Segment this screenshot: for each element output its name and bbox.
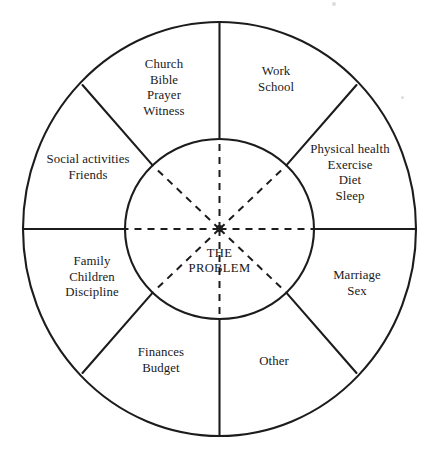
segment-label-physical-health: Physical health Exercise Diet Sleep (298, 142, 402, 204)
segment-line: Friends (32, 168, 144, 184)
segment-line: Physical health (298, 142, 402, 158)
center-line-2: PROBLEM (167, 261, 272, 276)
segment-label-marriage-sex: Marriage Sex (311, 268, 403, 299)
dashed-spoke-up-left (154, 166, 220, 229)
segment-line: Social activities (32, 152, 144, 168)
segment-line: Church (108, 57, 220, 73)
segment-line: Finances (112, 345, 210, 361)
segment-line: Sleep (298, 189, 402, 205)
segment-line: School (224, 80, 328, 96)
segment-line: Budget (112, 361, 210, 377)
segment-line: Sex (311, 284, 403, 300)
center-line-1: THE (167, 246, 272, 261)
segment-line: Prayer (108, 88, 220, 104)
segment-label-family-children-discipline: Family Children Discipline (40, 254, 144, 301)
problem-center-point (216, 225, 223, 232)
segment-line: Children (40, 270, 144, 286)
segment-line: Diet (298, 173, 402, 189)
segment-label-other: Other (229, 354, 319, 370)
segment-line: Exercise (298, 158, 402, 174)
segment-line: Discipline (40, 285, 144, 301)
segment-label-church-bible-prayer-witness: Church Bible Prayer Witness (108, 57, 220, 119)
segment-line: Family (40, 254, 144, 270)
scan-artifact (332, 2, 336, 6)
segment-line: Other (229, 354, 319, 370)
segment-line: Work (224, 64, 328, 80)
segment-line: Marriage (311, 268, 403, 284)
segment-label-social-activities-friends: Social activities Friends (32, 152, 144, 183)
segment-line: Witness (108, 104, 220, 120)
segment-line: Bible (108, 73, 220, 89)
segment-label-work-school: Work School (224, 64, 328, 95)
diagram-canvas: Church Bible Prayer Witness Work School … (0, 0, 439, 457)
segment-label-finances-budget: Finances Budget (112, 345, 210, 376)
scan-artifact (401, 96, 404, 99)
center-label-the-problem: THE PROBLEM (167, 246, 272, 276)
dashed-spoke-up-right (220, 166, 286, 229)
